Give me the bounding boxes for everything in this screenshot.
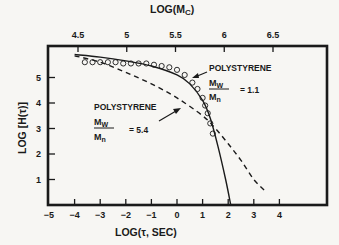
plot-frame: [48, 46, 327, 205]
x-tick-label: −3: [95, 210, 105, 220]
y-tick-label: 1: [36, 175, 41, 185]
top-x-tick-label: 5.5: [169, 30, 182, 40]
data-point: [113, 60, 118, 65]
y-axis-title: LOG [H(τ)]: [16, 102, 28, 154]
arrow-1-head: [192, 73, 199, 78]
data-point: [159, 63, 164, 68]
annotation-mw-mn-1-1: POLYSTYRENE MW Mn = 1.1: [192, 63, 272, 103]
svg-text:POLYSTYRENE: POLYSTYRENE: [209, 63, 272, 73]
top-x-tick-label: 4.5: [72, 30, 85, 40]
top-x-tick-label: 6.5: [267, 30, 280, 40]
x-tick-label: −2: [121, 210, 131, 220]
arrow-2: [159, 111, 176, 121]
data-point: [190, 80, 195, 85]
svg-text:POLYSTYRENE: POLYSTYRENE: [94, 102, 157, 112]
arrow-2-head: [173, 108, 181, 114]
x-tick-label: −1: [146, 210, 156, 220]
data-point: [174, 67, 179, 72]
x-tick-label: 2: [226, 210, 231, 220]
annotation-mw-mn-5-4: POLYSTYRENE MW Mn = 5.4: [94, 102, 181, 143]
svg-text:= 5.4: = 5.4: [129, 125, 148, 135]
y-tick-label: 5: [36, 73, 41, 83]
y-axis-ticks: 12345: [36, 73, 55, 185]
data-point: [195, 86, 200, 91]
x-axis-ticks: −5−4−3−2−101234: [44, 199, 282, 220]
x-tick-label: 0: [174, 210, 179, 220]
data-point: [121, 61, 126, 66]
top-axis-title: LOG(MC): [150, 3, 194, 17]
relaxation-spectrum-chart: −5−4−3−2−101234 4.555.566.5 12345 LOG(MC…: [0, 0, 339, 245]
data-point: [167, 65, 172, 70]
x-tick-label: 4: [277, 210, 282, 220]
top-x-axis-ticks: 4.555.566.5: [72, 30, 280, 52]
x-tick-label: 3: [251, 210, 256, 220]
svg-text:= 1.1: = 1.1: [240, 85, 259, 95]
top-x-tick-label: 6: [222, 30, 227, 40]
svg-text:MW: MW: [209, 78, 224, 89]
x-tick-label: 1: [200, 210, 205, 220]
y-tick-label: 2: [36, 149, 41, 159]
svg-text:Mn: Mn: [94, 132, 106, 143]
x-tick-label: −4: [69, 210, 79, 220]
y-tick-label: 3: [36, 124, 41, 134]
x-axis-title: LOG(τ, SEC): [115, 226, 177, 238]
top-x-tick-label: 5: [124, 30, 129, 40]
data-point: [105, 60, 110, 65]
y-tick-label: 4: [36, 98, 41, 108]
svg-text:MW: MW: [94, 117, 109, 128]
x-tick-label: −5: [44, 210, 54, 220]
series-mw-mn-1-1-theory-line: [75, 55, 231, 205]
svg-text:Mn: Mn: [209, 92, 221, 103]
data-point: [182, 72, 187, 77]
data-point: [82, 60, 87, 65]
